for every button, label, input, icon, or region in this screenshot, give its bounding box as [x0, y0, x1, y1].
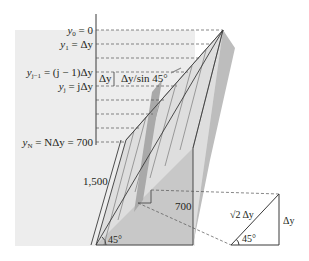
label-angle-detail: 45° — [242, 233, 256, 244]
label-hypotenuse: √2 Δy — [230, 209, 254, 220]
label-slant-length: 1,500 — [83, 175, 108, 187]
label-yN: yN = NΔy = 700 — [22, 136, 94, 150]
label-height: 700 — [175, 200, 192, 212]
label-y1: y1 = Δy — [59, 38, 93, 52]
dam-strip-diagram: y0 = 0 y1 = Δy yj−1 = (j − 1)Δy yj = jΔy… — [0, 0, 309, 261]
label-slant-width: Δy/sin 45° — [121, 72, 168, 84]
label-delta-y: Δy — [99, 72, 112, 84]
label-y0: y0 = 0 — [66, 24, 93, 38]
label-detail-vertical: Δy — [283, 215, 294, 226]
label-yj: yj = jΔy — [58, 80, 94, 94]
label-angle-main: 45° — [108, 234, 122, 245]
